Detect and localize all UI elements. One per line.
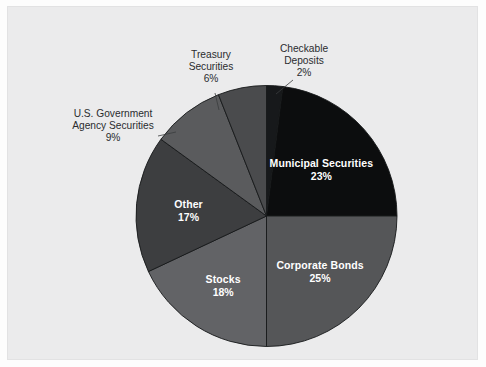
slice-label-name: U.S. Government [74,108,153,119]
slice-label-name: Other [174,198,203,210]
slice-label-name: Checkable [280,43,328,54]
slice-label-name: Securities [189,61,234,72]
slice-label-name: Municipal Securities [270,157,374,169]
slice-label-percent: 6% [204,73,219,84]
slice-label-name: Agency Securities [72,120,154,131]
slice-label-percent: 23% [311,170,333,182]
slice-label-name: Deposits [284,55,324,66]
pie-slice[interactable] [267,216,398,347]
pie-chart: Municipal Securities23%Corporate Bonds25… [0,0,486,367]
pie-chart-svg: Municipal Securities23%Corporate Bonds25… [0,0,486,367]
slice-label-percent: 25% [310,272,332,284]
slice-label-percent: 2% [297,67,312,78]
chart-page: Municipal Securities23%Corporate Bonds25… [0,0,486,367]
slice-label-name: Corporate Bonds [276,259,363,271]
slice-label-percent: 9% [106,132,121,143]
slice-label-percent: 18% [213,286,235,298]
slice-label-name: Stocks [206,273,241,285]
pie-slice[interactable] [267,87,398,216]
slice-label-name: Treasury [191,49,232,60]
slice-label-percent: 17% [178,211,200,223]
pie-slices-group [136,85,397,346]
